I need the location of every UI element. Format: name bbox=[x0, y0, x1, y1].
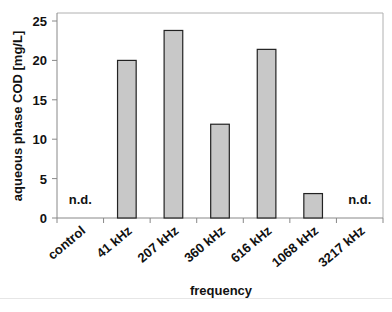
not-detected-label: n.d. bbox=[69, 192, 92, 207]
x-axis-title: frequency bbox=[190, 283, 253, 298]
bars bbox=[118, 30, 323, 218]
bar bbox=[257, 49, 276, 218]
x-tick-label: 1068 kHz bbox=[269, 222, 322, 270]
bar-chart: 0510152025 control41 kHz207 kHz360 kHz61… bbox=[0, 0, 392, 312]
bar bbox=[118, 60, 137, 218]
divider bbox=[0, 298, 392, 299]
not-detected-label: n.d. bbox=[348, 192, 371, 207]
y-tick-label: 15 bbox=[33, 93, 47, 108]
x-tick-label: control bbox=[45, 223, 88, 263]
y-tick-label: 5 bbox=[40, 172, 47, 187]
bar bbox=[211, 124, 230, 218]
bar bbox=[304, 194, 323, 218]
y-tick-label: 20 bbox=[33, 53, 47, 68]
x-tick-label: 360 kHz bbox=[181, 222, 228, 265]
x-tick-label: 3217 kHz bbox=[315, 222, 368, 270]
y-axis-title: aqueous phase COD [mg/L] bbox=[10, 31, 25, 201]
x-tick-label: 207 kHz bbox=[135, 222, 182, 265]
y-tick-label: 25 bbox=[33, 14, 47, 29]
y-tick-label: 0 bbox=[40, 211, 47, 226]
bar bbox=[164, 30, 183, 218]
y-tick-label: 10 bbox=[33, 132, 47, 147]
y-axis: 0510152025 bbox=[33, 13, 57, 226]
x-axis: control41 kHz207 kHz360 kHz616 kHz1068 k… bbox=[45, 218, 383, 270]
x-tick-label: 616 kHz bbox=[228, 222, 275, 265]
x-tick-label: 41 kHz bbox=[94, 222, 136, 260]
